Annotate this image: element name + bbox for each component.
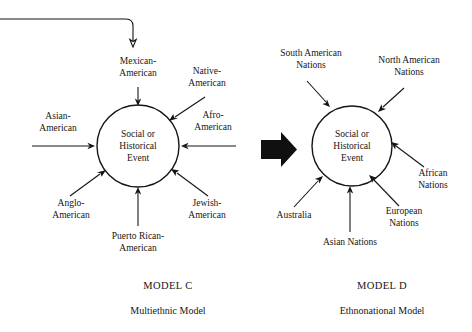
model-d-label-african-nations-line-2: Nations xyxy=(418,180,448,190)
model-c-edge-native-american xyxy=(169,97,205,121)
model-c-label-native-american-line-1: Native- xyxy=(193,66,222,76)
model-c-label-mexican-american-line-1: Mexican- xyxy=(120,56,156,66)
model-c-caption-title: MODEL C xyxy=(143,280,192,291)
model-c-label-asian-american-line-1: Asian- xyxy=(45,111,70,121)
model-d-group: Social or Historical Event South America… xyxy=(277,48,448,316)
model-d-edge-african-nations xyxy=(391,142,424,167)
model-d-label-european-nations-line-2: Nations xyxy=(389,218,419,228)
model-d-label-north-american-nations-line-1: North American xyxy=(378,55,440,65)
model-c-center-line-1: Social or xyxy=(121,129,156,139)
model-d-caption-subtitle: Ethnonational Model xyxy=(340,305,425,316)
model-d-label-north-american-nations-line-2: Nations xyxy=(394,67,424,77)
model-c-edge-afro-american xyxy=(181,143,236,149)
model-d-label-south-american-nations-line-2: Nations xyxy=(296,60,326,70)
model-d-center-line-3: Event xyxy=(341,153,364,163)
model-d-label-asian-nations-line-1: Asian Nations xyxy=(323,237,377,247)
model-c-edge-anglo-american xyxy=(70,170,106,196)
model-c-label-jewish-american-line-2: American xyxy=(188,210,226,220)
model-d-label-european-nations-line-1: European xyxy=(386,206,423,216)
model-c-center-line-3: Event xyxy=(127,153,150,163)
model-d-center-line-1: Social or xyxy=(335,129,370,139)
external-inflow-connector xyxy=(0,19,136,47)
model-c-label-afro-american-line-1: Afro- xyxy=(202,110,223,120)
figure-root: Social or Historical Event Mexican- Amer… xyxy=(0,0,472,332)
model-d-label-australia-line-1: Australia xyxy=(277,210,313,220)
model-c-center-line-2: Historical xyxy=(119,141,157,151)
model-c-label-mexican-american-line-2: American xyxy=(119,68,157,78)
model-c-label-native-american-line-2: American xyxy=(188,78,226,88)
model-d-edge-asian-nations xyxy=(347,186,353,232)
model-c-edge-puerto-rican-american xyxy=(135,187,141,226)
model-d-edge-australia xyxy=(294,176,323,207)
model-d-edge-south-american-nations xyxy=(307,81,330,107)
model-c-label-anglo-american-line-1: Anglo- xyxy=(58,198,85,208)
model-c-label-asian-american-line-2: American xyxy=(39,123,77,133)
model-c-edge-asian-american xyxy=(32,143,95,149)
model-c-label-afro-american-line-2: American xyxy=(194,122,232,132)
model-c-label-puerto-rican-american-line-1: Puerto Rican- xyxy=(112,231,165,241)
model-c-label-puerto-rican-american-line-2: American xyxy=(119,243,157,253)
model-c-edge-jewish-american xyxy=(171,169,208,196)
model-c-edge-mexican-american xyxy=(135,87,141,106)
model-c-to-model-d-arrow xyxy=(261,132,297,167)
model-d-label-african-nations-line-1: African xyxy=(418,168,447,178)
diagram-canvas: Social or Historical Event Mexican- Amer… xyxy=(0,0,472,332)
model-c-label-jewish-american-line-1: Jewish- xyxy=(192,198,221,208)
model-c-caption-subtitle: Multiethnic Model xyxy=(130,305,205,316)
model-d-caption-title: MODEL D xyxy=(357,280,407,291)
model-c-label-anglo-american-line-2: American xyxy=(52,210,90,220)
model-d-edge-north-american-nations xyxy=(378,88,404,112)
model-d-label-south-american-nations-line-1: South American xyxy=(280,48,342,58)
model-d-center-line-2: Historical xyxy=(333,141,371,151)
model-c-group: Social or Historical Event Mexican- Amer… xyxy=(32,56,236,316)
